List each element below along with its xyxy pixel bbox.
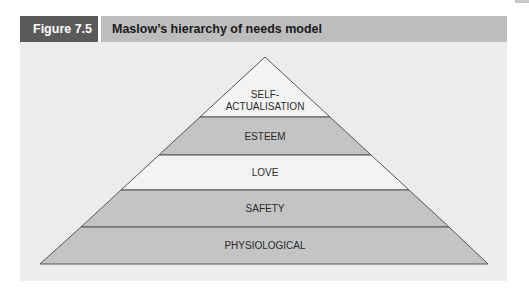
tier-label-esteem: ESTEEM: [244, 131, 285, 143]
tier-label-line1: SELF-: [226, 89, 305, 101]
tier-label-safety: SAFETY: [246, 203, 285, 215]
tier-label-line2: ACTUALISATION: [226, 101, 305, 113]
tier-label-physiological: PHYSIOLOGICAL: [224, 240, 305, 252]
tier-label-love: LOVE: [252, 167, 279, 179]
tier-label-self-actualisation: SELF- ACTUALISATION: [226, 89, 305, 113]
